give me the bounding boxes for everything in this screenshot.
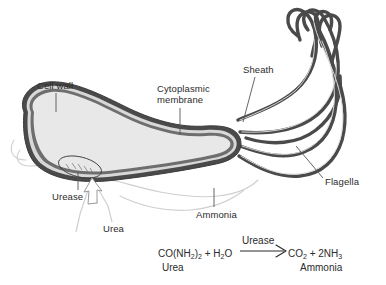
label-urea: Urea [103,223,124,234]
bacterium-diagram [0,0,386,285]
equation-products-co: CO [288,248,303,259]
equation-products: CO2 + 2NH3 [288,248,342,260]
flagella-bundle [238,10,345,177]
label-cytoplasmic-membrane-line2: membrane [157,94,203,105]
figure-root: Cell wall Cytoplasmic membrane Sheath Fl… [0,0,386,285]
cell-envelope [22,82,241,182]
reaction-arrow [240,245,286,257]
label-cell-wall: Cell wall [37,80,73,91]
label-ammonia: Ammonia [196,209,237,220]
equation-reactant-name: Urea [162,262,184,273]
equation-catalyst: Urease [242,235,274,246]
equation-products-sub2: 3 [338,253,342,260]
label-cytoplasmic-membrane-line1: Cytoplasmic [157,83,210,94]
equation-reactants: CO(NH2)2 + H2O [158,248,232,260]
equation-product-name: Ammonia [300,262,342,273]
label-flagella: Flagella [325,176,359,187]
label-sheath: Sheath [243,64,274,75]
equation-products-plus: + 2NH [307,248,338,259]
equation-reactants-plus: + H [202,248,221,259]
equation-reactants-formula: CO(NH [158,248,191,259]
label-urease: Urease [52,191,83,202]
equation-reactants-oxygen: O [224,248,232,259]
